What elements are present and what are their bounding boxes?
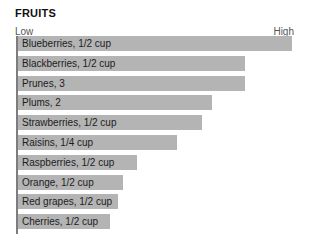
bar-label: Cherries, 1/2 cup xyxy=(22,214,98,229)
bar-row: Cherries, 1/2 cup xyxy=(18,214,110,229)
bar-label: Blueberries, 1/2 cup xyxy=(22,36,111,51)
bar-row: Prunes, 3 xyxy=(18,76,245,91)
bar-label: Strawberries, 1/2 cup xyxy=(22,115,117,130)
bar-row: Plums, 2 xyxy=(18,95,212,110)
bar-row: Raspberries, 1/2 cup xyxy=(18,155,137,170)
bar-row: Blackberries, 1/2 cup xyxy=(18,56,245,71)
bar-label: Prunes, 3 xyxy=(22,76,65,91)
bar-label: Orange, 1/2 cup xyxy=(22,175,94,190)
chart-title: FRUITS xyxy=(15,7,56,20)
bar-label: Blackberries, 1/2 cup xyxy=(22,56,115,71)
plot-area: Blueberries, 1/2 cupBlackberries, 1/2 cu… xyxy=(0,36,309,236)
bar-row: Orange, 1/2 cup xyxy=(18,175,123,190)
bar-label: Red grapes, 1/2 cup xyxy=(22,194,112,209)
bar-row: Raisins, 1/4 cup xyxy=(18,135,177,150)
bar-label: Raspberries, 1/2 cup xyxy=(22,155,114,170)
bar-row: Strawberries, 1/2 cup xyxy=(18,115,202,130)
bar-label: Raisins, 1/4 cup xyxy=(22,135,93,150)
bar-row: Blueberries, 1/2 cup xyxy=(18,36,292,51)
fruits-bar-chart: FRUITS Low High Blueberries, 1/2 cupBlac… xyxy=(0,0,309,241)
bar-row: Red grapes, 1/2 cup xyxy=(18,194,118,209)
bar-label: Plums, 2 xyxy=(22,95,61,110)
